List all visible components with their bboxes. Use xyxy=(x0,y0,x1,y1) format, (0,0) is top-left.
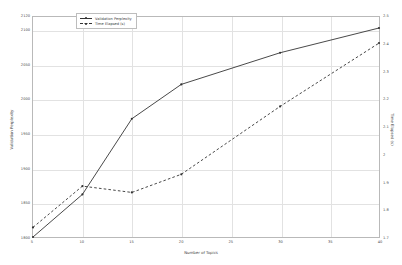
x-axis-tick-label: 30 xyxy=(278,240,283,244)
y-axis-title-left: Validation Perplexity xyxy=(9,75,14,185)
y-axis-tick-label-left: 2050 xyxy=(6,63,30,67)
y-axis-tick-label-left: 1850 xyxy=(6,201,30,205)
y-axis-tick-label-left: 2120 xyxy=(6,14,30,18)
legend-item: Time Elapsed (s) xyxy=(80,21,132,26)
x-axis-tick-label: 5 xyxy=(31,240,33,244)
y-axis-tick-label-left: 2100 xyxy=(6,28,30,32)
legend-label: Time Elapsed (s) xyxy=(95,22,125,26)
legend-line-solid-icon xyxy=(80,18,92,19)
chart-legend: Validation Perplexity Time Elapsed (s) xyxy=(76,13,137,29)
data-point-marker xyxy=(131,191,133,193)
data-point-marker xyxy=(378,27,380,29)
data-point-marker xyxy=(81,193,83,195)
y-axis-tick-label-right: 1.8 xyxy=(383,208,401,212)
y-axis-tick-label-right: 2.4 xyxy=(383,42,401,46)
data-point-marker xyxy=(32,236,34,238)
x-axis-tick-label: 25 xyxy=(229,240,234,244)
x-axis-tick-label: 15 xyxy=(129,240,134,244)
legend-label: Validation Perplexity xyxy=(95,17,132,21)
x-axis-tick-label: 40 xyxy=(378,240,383,244)
legend-line-dashed-icon xyxy=(80,23,92,24)
series-line-2 xyxy=(33,43,379,227)
data-point-marker xyxy=(180,173,182,175)
x-axis-title: Number of Topics xyxy=(0,250,402,255)
y-axis-tick-label-right: 2.3 xyxy=(383,70,401,74)
y-axis-tick-label-left: 1800 xyxy=(6,236,30,240)
data-point-marker xyxy=(279,105,281,107)
y-axis-tick-label-right: 1.7 xyxy=(383,236,401,240)
y-axis-title-right: Time Elapsed (s) xyxy=(390,75,395,185)
x-axis-tick-label: 10 xyxy=(79,240,84,244)
y-axis-tick-label-right: 2.5 xyxy=(383,14,401,18)
data-point-marker xyxy=(32,226,34,228)
series-line-1 xyxy=(33,28,379,237)
chart-figure: 180018501900195020002050210021201.71.81.… xyxy=(0,0,402,265)
data-point-marker xyxy=(131,118,133,120)
data-point-marker xyxy=(81,185,83,187)
series-layer xyxy=(33,17,379,237)
x-axis-tick-label: 35 xyxy=(328,240,333,244)
x-axis-tick-label: 20 xyxy=(179,240,184,244)
data-point-marker xyxy=(378,42,380,44)
data-point-marker xyxy=(279,52,281,54)
plot-area xyxy=(32,16,380,238)
data-point-marker xyxy=(180,83,182,85)
